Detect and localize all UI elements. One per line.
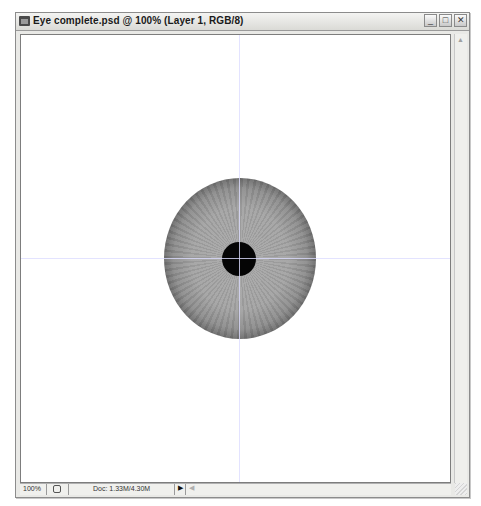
document-canvas[interactable] [20,34,451,483]
minimize-button[interactable]: _ [424,14,437,27]
title-bar[interactable]: Eye complete.psd @ 100% (Layer 1, RGB/8)… [16,13,469,31]
maximize-button[interactable]: □ [439,14,452,27]
zoom-level-field[interactable]: 100% [23,485,41,492]
window-title: Eye complete.psd @ 100% (Layer 1, RGB/8) [33,15,244,26]
photoshop-document-icon [19,16,30,26]
document-size-info: Doc: 1.33M/4.30M [93,485,150,492]
scroll-left-arrow-icon[interactable]: ◀ [189,484,194,492]
divider [185,484,186,495]
close-button[interactable]: ✕ [454,14,467,27]
horizontal-guide[interactable] [21,258,450,259]
divider [68,484,69,495]
divider [46,484,47,495]
scroll-up-arrow-icon[interactable]: ▲ [457,36,464,43]
divider [174,484,175,495]
status-bar: 100% Doc: 1.33M/4.30M ▶ ◀ [20,483,451,495]
resize-grip[interactable] [455,483,467,495]
navigator-icon[interactable] [53,485,61,493]
vertical-scrollbar[interactable]: ▲ [454,34,467,483]
status-menu-arrow-icon[interactable]: ▶ [178,484,183,492]
document-window: Eye complete.psd @ 100% (Layer 1, RGB/8)… [15,12,470,498]
